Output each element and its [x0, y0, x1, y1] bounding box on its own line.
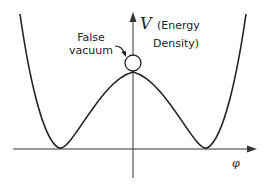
diagram-canvas	[0, 0, 264, 184]
false-vacuum-ball	[125, 55, 141, 71]
false-vacuum-label: False vacuum	[65, 31, 117, 57]
x-axis-arrow-icon	[247, 146, 257, 153]
y-axis-arrow-icon	[130, 12, 137, 22]
y-axis-symbol: V	[140, 17, 152, 30]
y-axis-label-line2: Density)	[153, 37, 199, 50]
x-axis-label: φ	[232, 157, 240, 170]
y-axis-label-line1: (Energy	[157, 19, 200, 32]
false-vacuum-line1: False	[65, 31, 117, 44]
pointer-arrow-head-icon	[122, 51, 127, 57]
false-vacuum-line2: vacuum	[65, 44, 117, 57]
